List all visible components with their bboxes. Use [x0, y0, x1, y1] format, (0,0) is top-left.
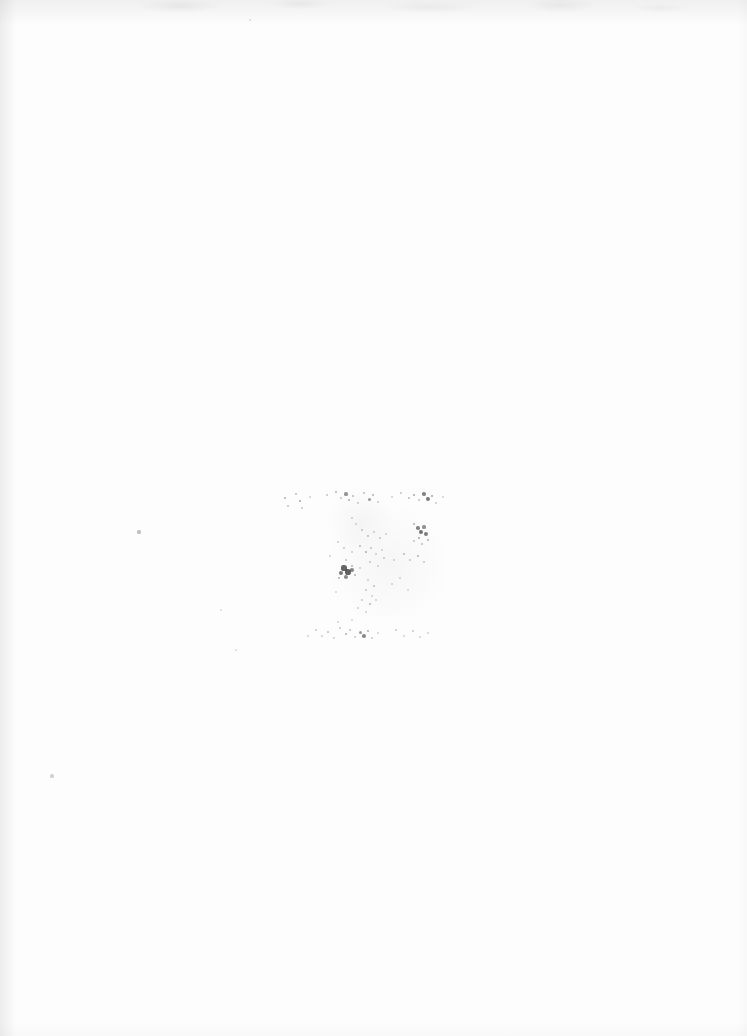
paper-background [0, 0, 747, 1036]
scanned-page [0, 0, 747, 1036]
